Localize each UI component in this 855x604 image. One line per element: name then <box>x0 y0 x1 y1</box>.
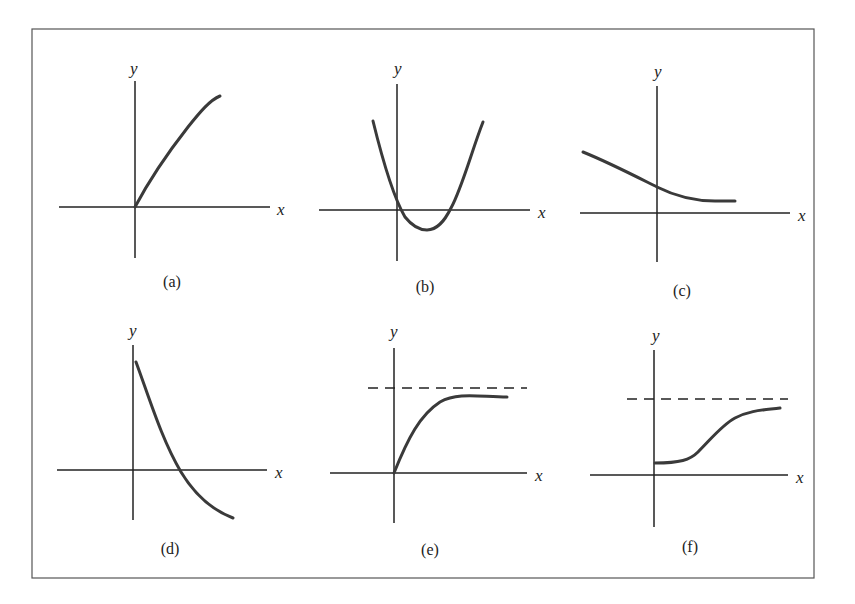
panels-group: xy(a)xy(b)xy(c)xy(d)xy(e)xy(f) <box>57 59 806 559</box>
x-axis-label: x <box>276 200 285 219</box>
y-axis-label: y <box>652 62 662 81</box>
panel-f: xy(f) <box>590 326 804 556</box>
panel-d: xy(d) <box>57 321 283 558</box>
function-curve <box>583 152 735 201</box>
panel-label: (a) <box>163 273 181 291</box>
function-curve <box>136 362 233 518</box>
panel-a: xy(a) <box>59 59 285 291</box>
panel-label: (c) <box>673 282 691 300</box>
x-axis-label: x <box>797 206 806 225</box>
x-axis-label: x <box>274 463 283 482</box>
function-curve <box>135 96 220 207</box>
panel-label: (f) <box>682 538 698 556</box>
x-axis-label: x <box>534 466 543 485</box>
panel-b: xy(b) <box>319 59 546 296</box>
function-curve <box>373 121 483 230</box>
figure-frame <box>32 29 814 578</box>
y-axis-label: y <box>392 59 402 78</box>
panel-label: (d) <box>161 540 180 558</box>
panel-label: (b) <box>416 278 435 296</box>
panel-c: xy(c) <box>580 62 806 300</box>
function-curve <box>394 396 507 473</box>
x-axis-label: x <box>795 468 804 487</box>
y-axis-label: y <box>128 59 138 78</box>
x-axis-label: x <box>537 203 546 222</box>
y-axis-label: y <box>127 321 137 340</box>
panel-label: (e) <box>421 541 439 559</box>
panel-e: xy(e) <box>330 322 543 559</box>
figure-canvas: xy(a)xy(b)xy(c)xy(d)xy(e)xy(f) <box>0 0 855 604</box>
y-axis-label: y <box>650 326 660 345</box>
y-axis-label: y <box>388 322 398 341</box>
function-curve <box>655 408 780 463</box>
